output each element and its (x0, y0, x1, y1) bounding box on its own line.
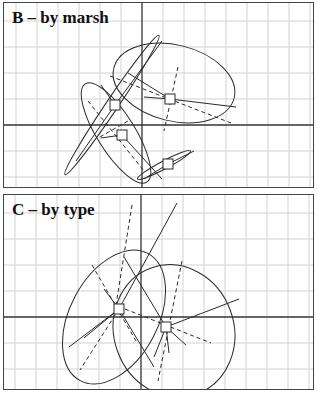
panel-title: B – by marsh (12, 8, 109, 28)
centroid-marker (117, 130, 127, 140)
spider-lines (69, 203, 239, 367)
panel-title: C – by type (12, 200, 95, 220)
ordination-plot-c (4, 195, 314, 390)
ordination-plot-b (4, 3, 314, 188)
centroid-marker (110, 100, 120, 110)
panel-c-by-type: C – by type (3, 194, 314, 390)
panel-b-by-marsh: B – by marsh (3, 2, 314, 188)
ellipse-marsh-3 (69, 74, 163, 188)
centroid-marker (163, 159, 173, 169)
centroid-marker (114, 304, 124, 314)
centroid-marker (161, 322, 171, 332)
centroid-marker (165, 94, 175, 104)
grid-lines (4, 195, 314, 390)
